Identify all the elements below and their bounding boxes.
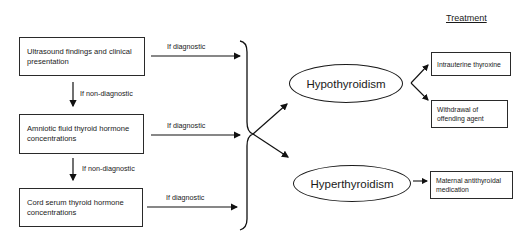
test-label: Ultrasound findings and clinical present… xyxy=(27,47,137,67)
diagnosis-label: Hyperthyroidism xyxy=(310,178,393,190)
treatment-label: Withdrawal of offending agent xyxy=(437,105,502,123)
treatment-box-antithyroidal: Maternal antithyroidal medication xyxy=(430,171,513,199)
diagnosis-hypothyroidism: Hypothyroidism xyxy=(289,64,403,103)
edge-label-diagnostic-1: If diagnostic xyxy=(167,42,205,51)
test-label: Amniotic fluid thyroid hormone concentra… xyxy=(27,124,136,144)
test-box-ultrasound: Ultrasound findings and clinical present… xyxy=(19,37,145,76)
edge-label-non-diagnostic-2: If non-diagnostic xyxy=(82,164,135,173)
test-box-cord-serum: Cord serum thyroid hormone concentration… xyxy=(19,188,143,227)
test-label: Cord serum thyroid hormone concentration… xyxy=(27,198,135,218)
edge-label-non-diagnostic-1: If non-diagnostic xyxy=(80,89,133,98)
edge-label-diagnostic-2: If diagnostic xyxy=(167,121,205,130)
treatment-box-withdrawal: Withdrawal of offending agent xyxy=(431,100,508,128)
diagnosis-label: Hypothyroidism xyxy=(306,78,385,90)
treatment-box-intrauterine-thyroxine: Intrauterine thyroxine xyxy=(431,52,511,76)
diagnosis-hyperthyroidism: Hyperthyroidism xyxy=(293,165,411,202)
treatment-label: Maternal antithyroidal medication xyxy=(436,176,507,194)
test-box-amniotic-fluid: Amniotic fluid thyroid hormone concentra… xyxy=(19,114,144,154)
treatment-label: Intrauterine thyroxine xyxy=(437,60,501,69)
edge-label-diagnostic-3: If diagnostic xyxy=(166,193,204,202)
treatment-heading: Treatment xyxy=(446,13,487,23)
